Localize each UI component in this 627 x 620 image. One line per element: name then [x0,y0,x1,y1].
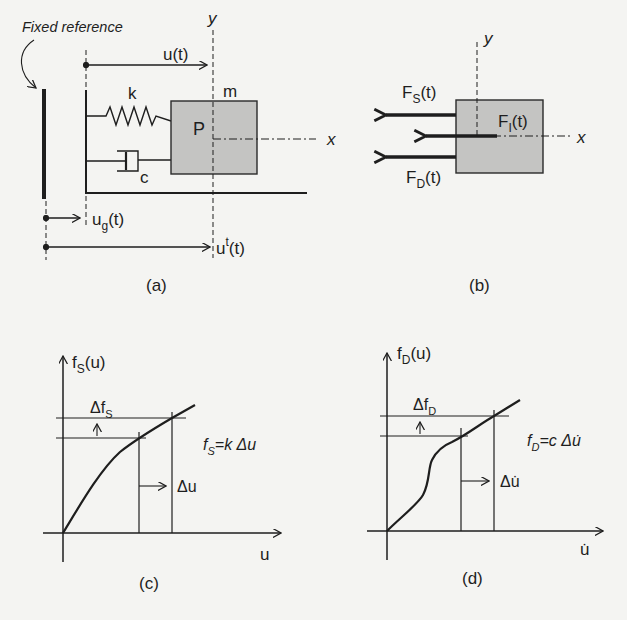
sdof-system-figure: Fixed reference u(t) k c m P y x [0,0,627,620]
panel-d-caption: (d) [462,569,483,588]
spring-force-label: FS(t) [402,83,436,106]
y-axis-label: y [483,29,494,48]
panel-b: y x FS(t) FI(t) FD(t) (b) [386,29,586,295]
stiffness-relation: fS=k Δu [203,436,256,457]
delta-fd-label: ΔfD [413,396,436,417]
udot-axis-label: u̇ [580,540,589,559]
u-displacement-label: u(t) [163,45,189,64]
delta-udot-label: Δu̇ [500,473,520,490]
panel-d: fD(u) u̇ ΔfD Δu̇ fD=c Δu̇ (d) [367,344,603,588]
damper-label: c [140,168,149,187]
y-axis-label: y [207,9,218,28]
fs-axis-label: fS(u) [72,353,106,376]
x-axis-label: x [576,128,586,147]
mass-label: m [223,82,237,101]
delta-fs-label: ΔfS [90,399,112,420]
damping-relation: fD=c Δu̇ [527,432,581,453]
panel-a: Fixed reference u(t) k c m P y x [21,9,336,295]
panel-c-caption: (c) [139,574,159,593]
x-axis-label: x [326,130,336,149]
fixed-reference-label: Fixed reference [22,19,123,35]
spring-force-curve [63,405,195,533]
spring-icon [86,107,171,125]
total-displacement-label: ut(t) [216,235,245,258]
leader-arrow-icon [21,40,36,88]
spring-label: k [128,84,137,103]
delta-u-label: Δu [177,478,197,495]
mass-block [171,101,257,174]
panel-b-caption: (b) [469,276,490,295]
ground-displacement-label: ug(t) [92,210,124,233]
damping-force-curve [387,400,520,531]
figure-canvas: Fixed reference u(t) k c m P y x [0,0,627,620]
damping-force-label: FD(t) [406,168,441,191]
panel-a-caption: (a) [146,276,167,295]
panel-c: fS(u) u ΔfS Δu fS=k Δu (c) [43,353,281,593]
u-axis-label: u [260,545,269,564]
fd-axis-label: fD(u) [397,344,431,367]
point-p-label: P [193,119,205,139]
